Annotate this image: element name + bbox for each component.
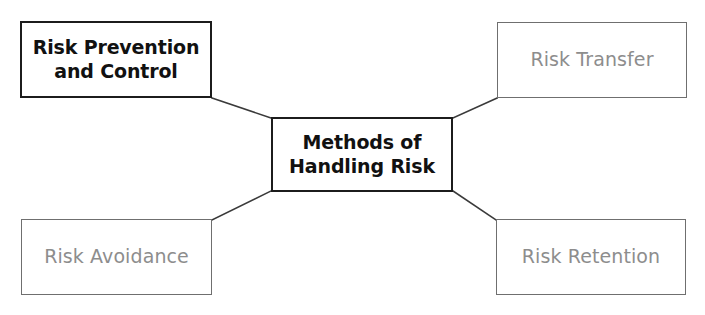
connector-center-to-retention: [453, 191, 496, 220]
node-risk-transfer[interactable]: Risk Transfer: [497, 22, 687, 98]
node-label: Risk Transfer: [530, 48, 653, 71]
node-label: Risk Retention: [522, 245, 660, 268]
connector-center-to-prevention: [212, 98, 271, 118]
node-label: Methods of Handling Risk: [289, 131, 435, 177]
connector-center-to-transfer: [453, 98, 497, 118]
connector-center-to-avoidance: [212, 191, 271, 220]
node-label: Risk Prevention and Control: [33, 36, 200, 82]
node-risk-avoidance[interactable]: Risk Avoidance: [21, 219, 212, 295]
diagram-canvas: Risk Prevention and Control Methods of H…: [0, 0, 705, 315]
node-label: Risk Avoidance: [44, 245, 189, 268]
node-risk-prevention-and-control[interactable]: Risk Prevention and Control: [20, 21, 212, 98]
node-methods-of-handling-risk[interactable]: Methods of Handling Risk: [271, 117, 453, 192]
node-risk-retention[interactable]: Risk Retention: [496, 219, 686, 295]
